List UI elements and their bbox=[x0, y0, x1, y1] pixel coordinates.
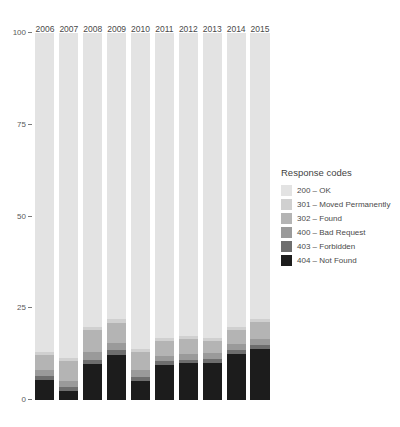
bar-segment-2008-403[interactable] bbox=[83, 360, 102, 364]
bar-2010[interactable] bbox=[131, 33, 150, 400]
bar-segment-2006-403[interactable] bbox=[35, 376, 54, 380]
bar-segment-2014-302[interactable] bbox=[227, 330, 246, 345]
bar-segment-2009-404[interactable] bbox=[107, 355, 126, 400]
bar-segment-2007-400[interactable] bbox=[59, 381, 78, 387]
legend-item-301[interactable]: 301 – Moved Permanently bbox=[281, 197, 400, 211]
bar-segment-2009-200[interactable] bbox=[107, 33, 126, 319]
bar-2015[interactable] bbox=[250, 33, 269, 400]
bar-segment-2010-400[interactable] bbox=[131, 370, 150, 377]
bar-2013[interactable] bbox=[203, 33, 222, 400]
bar-2008[interactable] bbox=[83, 33, 102, 400]
bar-segment-2007-404[interactable] bbox=[59, 391, 78, 400]
bar-segment-2008-200[interactable] bbox=[83, 33, 102, 327]
legend-label-404: 404 – Not Found bbox=[297, 255, 357, 266]
bar-segment-2009-302[interactable] bbox=[107, 323, 126, 343]
bar-2007[interactable] bbox=[59, 33, 78, 400]
legend-item-302[interactable]: 302 – Found bbox=[281, 211, 400, 225]
plot-area bbox=[33, 33, 272, 400]
y-axis-tick-mark bbox=[28, 32, 32, 33]
bar-segment-2007-200[interactable] bbox=[59, 33, 78, 358]
legend-item-400[interactable]: 400 – Bad Request bbox=[281, 225, 400, 239]
bar-segment-2010-403[interactable] bbox=[131, 377, 150, 381]
bar-segment-2013-200[interactable] bbox=[203, 33, 222, 338]
bar-segment-2013-403[interactable] bbox=[203, 359, 222, 363]
y-axis-tick-mark bbox=[28, 399, 32, 400]
stacked-bar-chart: 0255075100 20062007200820092010201120122… bbox=[0, 0, 400, 427]
legend-swatch-301 bbox=[281, 199, 292, 210]
bar-segment-2006-400[interactable] bbox=[35, 370, 54, 376]
legend-item-200[interactable]: 200 – OK bbox=[281, 183, 400, 197]
legend-title: Response codes bbox=[281, 167, 400, 179]
bar-segment-2013-302[interactable] bbox=[203, 341, 222, 354]
bar-segment-2008-302[interactable] bbox=[83, 330, 102, 352]
bar-segment-2008-400[interactable] bbox=[83, 352, 102, 359]
bar-2011[interactable] bbox=[155, 33, 174, 400]
bar-segment-2011-403[interactable] bbox=[155, 361, 174, 365]
bar-segment-2007-302[interactable] bbox=[59, 361, 78, 381]
legend-swatch-200 bbox=[281, 185, 292, 196]
bar-segment-2010-301[interactable] bbox=[131, 349, 150, 352]
legend-item-404[interactable]: 404 – Not Found bbox=[281, 253, 400, 267]
bar-segment-2007-301[interactable] bbox=[59, 358, 78, 361]
bar-segment-2012-302[interactable] bbox=[179, 339, 198, 354]
bar-2009[interactable] bbox=[107, 33, 126, 400]
bar-segment-2010-404[interactable] bbox=[131, 381, 150, 400]
y-axis-tick-mark bbox=[28, 124, 32, 125]
legend-swatch-404 bbox=[281, 255, 292, 266]
bar-segment-2009-301[interactable] bbox=[107, 319, 126, 323]
legend: Response codes 200 – OK301 – Moved Perma… bbox=[281, 167, 400, 267]
bar-segment-2007-403[interactable] bbox=[59, 387, 78, 391]
bar-2014[interactable] bbox=[227, 33, 246, 400]
bar-segment-2014-403[interactable] bbox=[227, 350, 246, 354]
y-axis-tick-label: 25 bbox=[17, 302, 26, 314]
bar-segment-2013-400[interactable] bbox=[203, 353, 222, 359]
bar-segment-2014-400[interactable] bbox=[227, 344, 246, 350]
bar-segment-2013-301[interactable] bbox=[203, 338, 222, 341]
bar-segment-2012-400[interactable] bbox=[179, 354, 198, 360]
bar-segment-2011-404[interactable] bbox=[155, 365, 174, 400]
bar-segment-2015-403[interactable] bbox=[250, 345, 269, 349]
bar-segment-2011-200[interactable] bbox=[155, 33, 174, 338]
legend-label-301: 301 – Moved Permanently bbox=[297, 199, 390, 210]
bar-2012[interactable] bbox=[179, 33, 198, 400]
bar-segment-2009-400[interactable] bbox=[107, 343, 126, 350]
bar-segment-2008-404[interactable] bbox=[83, 364, 102, 400]
bar-segment-2006-301[interactable] bbox=[35, 352, 54, 355]
legend-swatch-403 bbox=[281, 241, 292, 252]
bar-segment-2012-404[interactable] bbox=[179, 363, 198, 400]
y-axis-tick: 50 bbox=[0, 211, 33, 223]
bar-segment-2012-301[interactable] bbox=[179, 336, 198, 339]
bar-segment-2014-404[interactable] bbox=[227, 354, 246, 400]
legend-label-302: 302 – Found bbox=[297, 213, 342, 224]
bar-segment-2009-403[interactable] bbox=[107, 350, 126, 354]
legend-swatch-302 bbox=[281, 213, 292, 224]
bar-segment-2006-404[interactable] bbox=[35, 380, 54, 400]
y-axis-tick: 75 bbox=[0, 119, 33, 131]
bar-segment-2015-200[interactable] bbox=[250, 33, 269, 319]
bar-segment-2015-404[interactable] bbox=[250, 349, 269, 400]
bar-segment-2014-301[interactable] bbox=[227, 327, 246, 330]
y-axis-tick-label: 50 bbox=[17, 211, 26, 223]
bar-segment-2012-200[interactable] bbox=[179, 33, 198, 336]
legend-label-400: 400 – Bad Request bbox=[297, 227, 366, 238]
legend-label-403: 403 – Forbidden bbox=[297, 241, 355, 252]
bar-segment-2010-200[interactable] bbox=[131, 33, 150, 349]
bar-segment-2011-400[interactable] bbox=[155, 356, 174, 362]
bar-segment-2015-400[interactable] bbox=[250, 339, 269, 345]
bar-segment-2015-301[interactable] bbox=[250, 319, 269, 322]
bar-2006[interactable] bbox=[35, 33, 54, 400]
bar-segment-2006-302[interactable] bbox=[35, 355, 54, 370]
bar-segment-2015-302[interactable] bbox=[250, 322, 269, 339]
legend-item-403[interactable]: 403 – Forbidden bbox=[281, 239, 400, 253]
y-axis-tick: 0 bbox=[0, 394, 33, 406]
bar-segment-2011-301[interactable] bbox=[155, 338, 174, 341]
legend-swatch-400 bbox=[281, 227, 292, 238]
bar-segment-2008-301[interactable] bbox=[83, 327, 102, 331]
bar-segment-2014-200[interactable] bbox=[227, 33, 246, 327]
bar-segment-2010-302[interactable] bbox=[131, 352, 150, 370]
bar-segment-2011-302[interactable] bbox=[155, 341, 174, 356]
bar-segment-2012-403[interactable] bbox=[179, 360, 198, 364]
bar-segment-2006-200[interactable] bbox=[35, 33, 54, 352]
y-axis: 0255075100 bbox=[0, 0, 33, 427]
bar-segment-2013-404[interactable] bbox=[203, 363, 222, 400]
